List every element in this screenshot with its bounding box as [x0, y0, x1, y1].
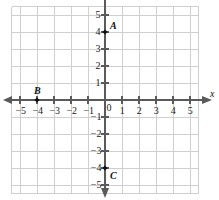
y-tick-label: −5	[91, 180, 102, 190]
x-tick-label: −5	[15, 106, 26, 116]
x-tick-label: −2	[66, 106, 77, 116]
y-tick-label: 4	[95, 27, 100, 37]
y-tick-label: −3	[91, 146, 102, 156]
y-tick-label: −4	[91, 163, 102, 173]
point-label-c: C	[110, 171, 117, 181]
x-tick-label: 3	[154, 106, 159, 116]
x-tick-label: 1	[120, 106, 125, 116]
y-tick-label: 2	[95, 61, 100, 71]
coordinate-plane-figure: −5−4−3−2−112345054321−1−2−3−4−5ABC x	[0, 0, 219, 200]
data-point-marker	[34, 97, 39, 102]
point-label-b: B	[34, 86, 41, 96]
y-tick-label: −2	[91, 129, 102, 139]
x-tick-label: 4	[171, 106, 176, 116]
x-tick-label: −3	[49, 106, 60, 116]
x-tick-label: −4	[32, 106, 43, 116]
origin-label: 0	[107, 103, 112, 113]
data-point-marker	[102, 29, 107, 34]
y-tick-label: 5	[95, 10, 100, 20]
x-tick-label: 5	[188, 106, 193, 116]
y-tick-label: 3	[95, 44, 100, 54]
x-tick-label: 2	[137, 106, 142, 116]
y-tick-label: 1	[95, 78, 100, 88]
x-axis-arrow-left	[3, 96, 12, 104]
point-label-a: A	[110, 21, 117, 31]
y-tick-label: −1	[91, 112, 102, 122]
data-point-marker	[102, 165, 107, 170]
x-axis-label: x	[210, 89, 214, 99]
